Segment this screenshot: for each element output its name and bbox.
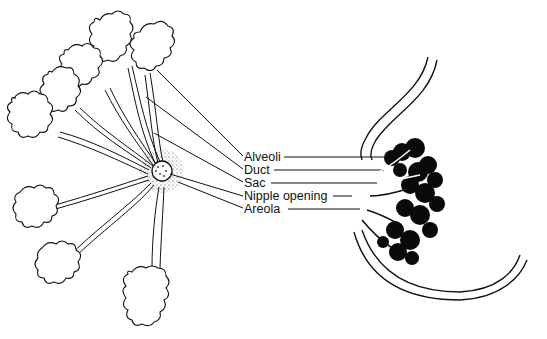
glandular-tissue [377,138,445,265]
label-duct: Duct [244,163,270,177]
lobe [123,266,169,326]
breast-anatomy-diagram [0,0,547,339]
lobe [7,91,52,137]
label-alveoli: Alveoli [244,150,281,164]
label-sac: Sac [244,176,266,190]
label-areola: Areola [244,202,280,216]
lobe [13,185,59,227]
label-nipple-opening: Nipple opening [244,189,327,203]
lobe [130,21,175,70]
lobe [35,241,81,283]
front-view [7,11,184,326]
